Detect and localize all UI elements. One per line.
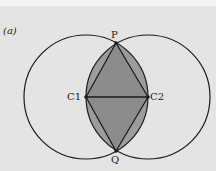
- point-p: [114, 41, 118, 45]
- label-c1: C1: [67, 92, 81, 102]
- label-c2: C2: [150, 92, 164, 102]
- label-q: Q: [111, 155, 119, 165]
- panel-label: (a): [3, 26, 17, 36]
- vesica-diagram: [0, 0, 216, 171]
- point-c1: [84, 95, 88, 99]
- point-q: [114, 149, 118, 153]
- label-p: P: [111, 30, 118, 40]
